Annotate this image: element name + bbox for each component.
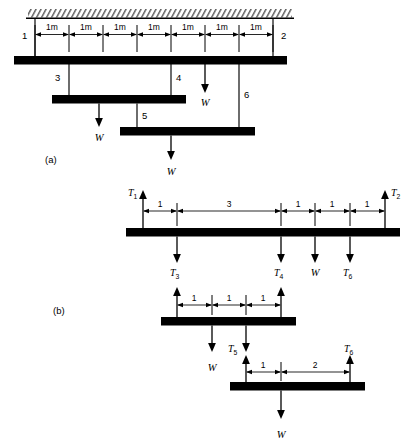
dim-label-b-top-5: 1 — [365, 199, 370, 209]
dimension-row-a: 1m 1m 1m 1m 1m 1m 1m — [35, 22, 273, 56]
force-arrow-T4 — [277, 237, 285, 264]
dim-label-b-top-2: 3 — [227, 199, 232, 209]
engineering-diagram: 1m 1m 1m 1m 1m 1m 1m 1 2 3 4 6 W — [0, 0, 418, 447]
load-label-a-1: W — [201, 97, 211, 108]
force-label-W-b-bottom: W — [277, 429, 287, 440]
dim-label-b-mid-2: 1 — [227, 293, 232, 303]
force-label-W-b-middle: W — [208, 362, 218, 373]
panel-b-group: (b) T1 T2 — [53, 187, 401, 440]
force-label-W-b-top: W — [311, 267, 321, 278]
node-label-1: 1 — [22, 30, 27, 41]
force-arrow-T3-middle — [173, 287, 181, 318]
force-label-T1: T1 — [128, 187, 138, 200]
load-arrow-a-top — [201, 64, 209, 93]
fbd-middle-beam-group: 1 1 1 W T5 — [161, 287, 296, 373]
force-label-T2: T2 — [391, 187, 401, 200]
dim-label-a-7: 1m — [250, 22, 262, 32]
force-label-T6-bottom: T6 — [344, 343, 354, 356]
panel-label-b: (b) — [53, 305, 65, 316]
force-arrow-T5-middle — [242, 326, 250, 353]
force-arrow-T3 — [173, 237, 181, 264]
load-label-a-2: W — [95, 132, 105, 143]
dim-label-b-mid-1: 1 — [192, 293, 197, 303]
load-label-a-3: W — [167, 166, 177, 177]
panel-label-a: (a) — [45, 154, 57, 165]
ceiling-hatch-icon — [28, 9, 292, 18]
force-arrow-T5-bottom — [242, 355, 250, 383]
node-label-3: 3 — [55, 72, 60, 83]
dim-label-a-5: 1m — [182, 22, 194, 32]
panel-a-group: 1m 1m 1m 1m 1m 1m 1m 1 2 3 4 6 W — [14, 9, 294, 177]
dim-label-b-mid-3: 1 — [261, 293, 266, 303]
beam-bottom-a — [120, 127, 255, 136]
force-label-T6-b-top: T6 — [343, 267, 353, 280]
force-label-T3: T3 — [170, 267, 180, 280]
dim-label-a-2: 1m — [80, 22, 92, 32]
dim-label-b-top-4: 1 — [330, 199, 335, 209]
dim-label-a-1: 1m — [46, 22, 58, 32]
dim-label-b-bot-1: 1 — [261, 360, 266, 370]
node-label-5: 5 — [142, 110, 147, 121]
ceiling-support — [26, 9, 294, 18]
beam-bottom-b — [230, 382, 365, 391]
force-label-T4: T4 — [274, 267, 284, 280]
force-arrow-T2 — [381, 190, 389, 229]
load-arrow-a-middle — [95, 104, 103, 128]
force-arrow-T4-middle — [277, 287, 285, 318]
beam-top-b — [126, 228, 400, 237]
node-label-6: 6 — [244, 89, 249, 100]
dim-label-b-top-3: 1 — [296, 199, 301, 209]
load-arrow-a-bottom — [167, 136, 175, 161]
force-arrow-W-b-bottom — [277, 391, 285, 420]
force-arrow-W-b-middle — [208, 326, 216, 353]
node-label-4: 4 — [176, 72, 181, 83]
figure-container: 1m 1m 1m 1m 1m 1m 1m 1 2 3 4 6 W — [0, 0, 418, 447]
beam-middle-b — [161, 317, 296, 326]
force-arrow-W-b-top — [311, 237, 319, 264]
dim-label-a-6: 1m — [216, 22, 228, 32]
force-arrow-T6-bottom — [346, 355, 354, 383]
dim-label-a-3: 1m — [114, 22, 126, 32]
dim-label-b-top-1: 1 — [158, 199, 163, 209]
dim-label-b-bot-2: 2 — [313, 360, 318, 370]
force-arrow-T6-b-top — [346, 237, 354, 264]
node-label-2: 2 — [281, 30, 286, 41]
fbd-top-beam-group: T1 T2 — [126, 187, 401, 280]
beam-middle-a — [52, 95, 186, 104]
dimension-ticks-b-top — [177, 203, 350, 226]
force-arrow-T1 — [139, 190, 147, 229]
force-label-T5-middle: T5 — [228, 343, 238, 356]
dim-label-a-4: 1m — [148, 22, 160, 32]
fbd-bottom-beam-group: T6 1 2 W — [230, 343, 365, 440]
beam-top-a — [14, 56, 287, 65]
